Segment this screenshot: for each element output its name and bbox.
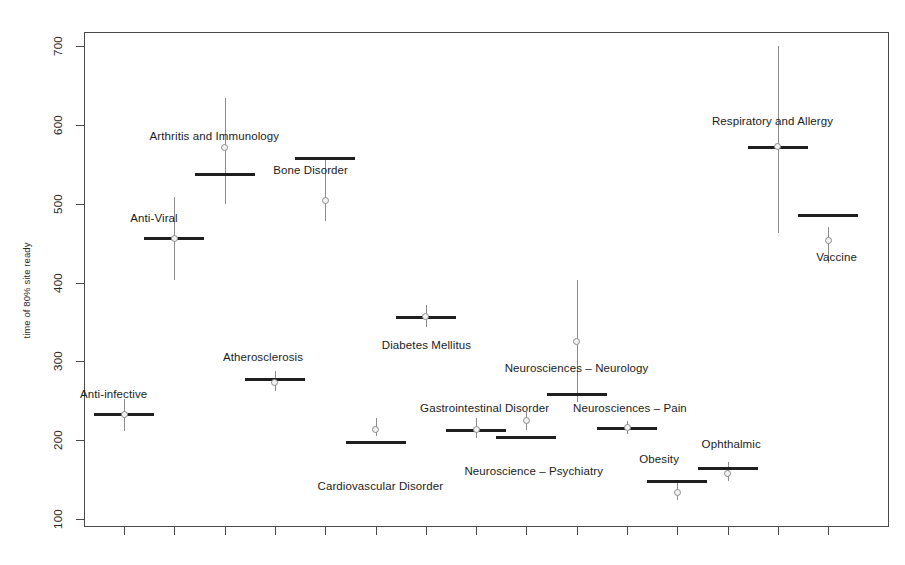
median-bar (295, 157, 355, 160)
data-point-marker (724, 470, 731, 477)
x-axis-tick-mark (627, 527, 628, 535)
y-axis-tick-label-text: 200 (52, 430, 64, 450)
series-annotation-label: Neurosciences – Pain (573, 402, 687, 414)
y-axis-tick-label-text: 700 (52, 36, 64, 56)
series-annotation-label: Bone Disorder (273, 164, 348, 176)
series-annotation-label: Gastrointestinal Disorder (420, 402, 549, 414)
y-axis-tick-mark (76, 440, 84, 441)
y-axis-tick-label: 300 (44, 355, 72, 367)
series-annotation-label: Diabetes Mellitus (382, 339, 471, 351)
series-annotation-label: Ophthalmic (702, 438, 761, 450)
y-axis-tick-mark (76, 46, 84, 47)
data-point-marker (674, 489, 681, 496)
y-axis-tick-label: 600 (44, 119, 72, 131)
data-point-marker (171, 235, 178, 242)
x-axis-tick-mark (577, 527, 578, 535)
y-axis: 100200300400500600700 (0, 0, 84, 565)
x-axis-tick-mark (174, 527, 175, 535)
data-point-marker (523, 417, 530, 424)
median-bar (346, 441, 406, 444)
data-point-marker (825, 237, 832, 244)
median-bar (798, 214, 858, 217)
y-axis-tick-label-text: 500 (52, 194, 64, 214)
y-axis-tick-label: 500 (44, 198, 72, 210)
y-axis-tick-mark (76, 204, 84, 205)
series-annotation-label: Cardiovascular Disorder (318, 480, 444, 492)
y-axis-tick-label: 200 (44, 434, 72, 446)
x-axis-tick-mark (124, 527, 125, 535)
y-axis-tick-label-text: 100 (52, 509, 64, 529)
median-bar (496, 436, 556, 439)
x-axis-tick-mark (476, 527, 477, 535)
y-axis-tick-mark (76, 519, 84, 520)
data-point-marker (473, 426, 480, 433)
y-axis-tick-mark (76, 361, 84, 362)
data-point-marker (624, 424, 631, 431)
median-bar (547, 393, 607, 396)
median-bar (647, 480, 707, 483)
x-axis-tick-mark (828, 527, 829, 535)
median-bar (195, 173, 255, 176)
series-annotation-label: Arthritis and Immunology (150, 130, 280, 142)
plot-area (84, 32, 889, 527)
series-annotation-label: Atherosclerosis (223, 351, 303, 363)
series-annotation-label: Obesity (639, 453, 679, 465)
x-axis-tick-mark (225, 527, 226, 535)
y-axis-tick-label: 400 (44, 277, 72, 289)
x-axis-tick-mark (677, 527, 678, 535)
series-annotation-label: Neurosciences – Neurology (505, 362, 649, 374)
y-axis-tick-label: 100 (44, 513, 72, 525)
y-axis-tick-label-text: 400 (52, 273, 64, 293)
y-axis-tick-label: 700 (44, 40, 72, 52)
series-annotation-label: Vaccine (816, 251, 857, 263)
y-axis-tick-mark (76, 283, 84, 284)
series-annotation-label: Anti-infective (80, 388, 147, 400)
x-axis-tick-mark (426, 527, 427, 535)
y-axis-tick-label-text: 300 (52, 351, 64, 371)
data-point-marker (121, 411, 128, 418)
x-axis-tick-mark (275, 527, 276, 535)
chart-page: time of 80% site ready 10020030040050060… (0, 0, 905, 565)
x-axis-tick-mark (728, 527, 729, 535)
x-axis-tick-mark (376, 527, 377, 535)
series-annotation-label: Neuroscience – Psychiatry (464, 465, 603, 477)
x-axis-tick-mark (325, 527, 326, 535)
x-axis-tick-mark (778, 527, 779, 535)
x-axis-tick-mark (526, 527, 527, 535)
y-axis-tick-mark (76, 125, 84, 126)
series-annotation-label: Anti-Viral (130, 212, 177, 224)
data-point-marker (774, 143, 781, 150)
series-annotation-label: Respiratory and Allergy (712, 115, 833, 127)
data-point-marker (322, 197, 329, 204)
error-bar-whisker (778, 46, 779, 233)
y-axis-tick-label-text: 600 (52, 115, 64, 135)
